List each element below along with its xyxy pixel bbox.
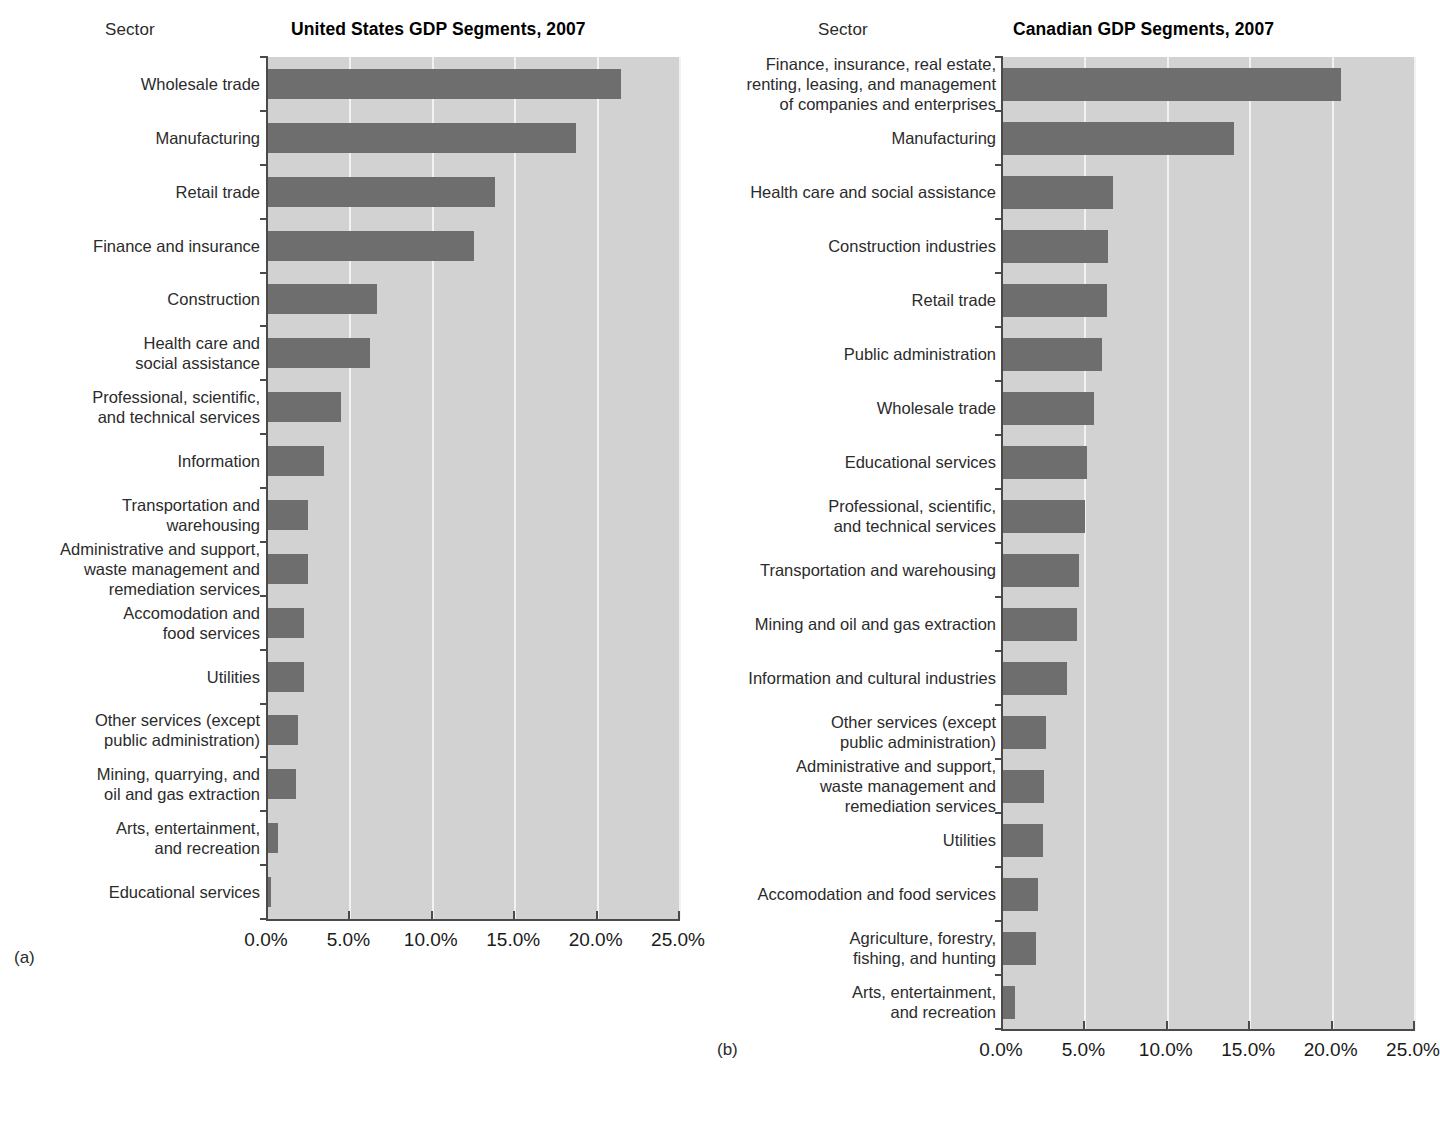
category-tick: [995, 596, 1003, 598]
bar: [268, 554, 308, 584]
category-label: Health care and social assistance: [713, 182, 996, 202]
bar: [268, 715, 298, 745]
x-tick-mark: [596, 911, 598, 919]
chart-panel-us: Sector United States GDP Segments, 2007 …: [0, 0, 713, 1128]
x-tick-mark: [1001, 1021, 1003, 1029]
x-tick-label: 25.0%: [1386, 1039, 1440, 1061]
category-label: Mining, quarrying, and oil and gas extra…: [10, 764, 260, 804]
gridline: [1167, 57, 1169, 1029]
bar: [268, 877, 271, 907]
category-tick: [260, 703, 268, 705]
category-tick: [260, 272, 268, 274]
bar: [268, 177, 495, 207]
category-tick: [260, 379, 268, 381]
category-label: Wholesale trade: [10, 74, 260, 94]
category-label: Manufacturing: [713, 128, 996, 148]
category-tick: [995, 488, 1003, 490]
chart-title-canada: Canadian GDP Segments, 2007: [1013, 19, 1274, 40]
x-tick-label: 10.0%: [404, 929, 458, 951]
x-tick-mark: [1083, 1021, 1085, 1029]
category-label: Accomodation and food services: [713, 884, 996, 904]
category-tick: [260, 110, 268, 112]
category-tick: [995, 272, 1003, 274]
category-tick: [260, 325, 268, 327]
category-tick: [995, 920, 1003, 922]
category-tick: [260, 649, 268, 651]
bar: [1003, 986, 1015, 1019]
sector-column-header: Sector: [818, 20, 868, 40]
category-label: Educational services: [10, 882, 260, 902]
gridline: [514, 57, 516, 919]
category-label: Professional, scientific, and technical …: [713, 496, 996, 536]
axis-end-tick: [260, 56, 268, 58]
bar: [268, 231, 474, 261]
bar: [268, 769, 296, 799]
category-tick: [260, 595, 268, 597]
category-label: Accomodation and food services: [10, 603, 260, 643]
bar: [268, 608, 304, 638]
category-tick: [260, 218, 268, 220]
bar: [1003, 878, 1038, 911]
x-tick-label: 15.0%: [486, 929, 540, 951]
x-tick-mark: [266, 911, 268, 919]
bar: [1003, 122, 1234, 155]
bar: [268, 500, 308, 530]
x-tick-mark: [513, 911, 515, 919]
category-tick: [995, 758, 1003, 760]
category-label: Transportation and warehousing: [10, 495, 260, 535]
bar: [268, 123, 576, 153]
panel-letter-b: (b): [717, 1040, 738, 1060]
bar: [268, 69, 621, 99]
x-tick-label: 10.0%: [1139, 1039, 1193, 1061]
bar: [268, 823, 278, 853]
category-label: Arts, entertainment, and recreation: [713, 982, 996, 1022]
category-tick: [995, 974, 1003, 976]
x-tick-label: 20.0%: [569, 929, 623, 951]
bar: [1003, 824, 1043, 857]
bar: [1003, 662, 1067, 695]
category-label: Construction industries: [713, 236, 996, 256]
category-tick: [995, 110, 1003, 112]
category-label: Educational services: [713, 452, 996, 472]
category-tick: [260, 756, 268, 758]
category-tick: [995, 542, 1003, 544]
bar: [1003, 932, 1036, 965]
x-tick-mark: [1413, 1021, 1415, 1029]
gridline: [1414, 57, 1416, 1029]
category-tick: [260, 541, 268, 543]
bar: [1003, 68, 1341, 101]
plot-area-canada: [1001, 57, 1415, 1029]
bar: [1003, 608, 1077, 641]
category-label: Wholesale trade: [713, 398, 996, 418]
category-label: Finance, insurance, real estate, renting…: [713, 54, 996, 114]
panel-letter-a: (a): [14, 948, 35, 968]
x-tick-label: 25.0%: [651, 929, 705, 951]
category-label: Retail trade: [10, 182, 260, 202]
category-label: Administrative and support, waste manage…: [713, 756, 996, 816]
sector-column-header: Sector: [105, 20, 155, 40]
category-label: Arts, entertainment, and recreation: [10, 818, 260, 858]
category-tick: [995, 704, 1003, 706]
x-tick-mark: [1331, 1021, 1333, 1029]
x-axis-line: [266, 919, 680, 921]
category-tick: [260, 487, 268, 489]
bar: [268, 662, 304, 692]
bar: [268, 392, 341, 422]
bar: [1003, 554, 1079, 587]
gridline: [1249, 57, 1251, 1029]
category-label: Construction: [10, 289, 260, 309]
category-label: Utilities: [10, 667, 260, 687]
gridline: [597, 57, 599, 919]
category-label: Finance and insurance: [10, 236, 260, 256]
category-label: Professional, scientific, and technical …: [10, 387, 260, 427]
chart-panel-canada: Sector Canadian GDP Segments, 2007 Finan…: [713, 0, 1426, 1128]
category-tick: [260, 164, 268, 166]
x-tick-label: 0.0%: [979, 1039, 1022, 1061]
x-tick-mark: [678, 911, 680, 919]
gridline: [679, 57, 681, 919]
category-tick: [260, 433, 268, 435]
category-tick: [995, 164, 1003, 166]
category-tick: [260, 810, 268, 812]
category-label: Public administration: [713, 344, 996, 364]
bar: [1003, 500, 1085, 533]
